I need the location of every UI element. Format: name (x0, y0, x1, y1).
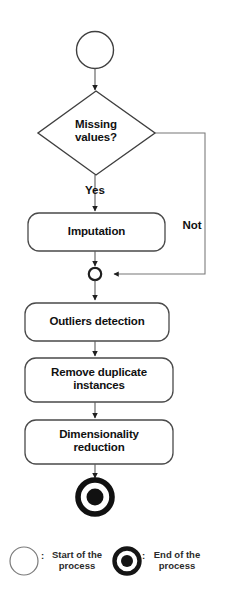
merge-node (89, 268, 101, 280)
missing-values-decision (38, 91, 155, 175)
flowchart-graphics (0, 0, 228, 590)
legend-start-label: Start of the process (47, 550, 107, 572)
legend-end-separator: : (142, 550, 145, 561)
legend-start-separator: : (41, 550, 44, 561)
legend-start-line2: process (47, 561, 107, 572)
outliers-detection-step (25, 303, 169, 341)
branch-label-yes: Yes (75, 184, 115, 196)
legend-start-icon (10, 547, 38, 575)
edge-decision-not (114, 133, 205, 274)
flowchart-canvas: Missing values? Yes Not Imputation Outli… (0, 0, 228, 590)
imputation-step (28, 213, 165, 251)
start-node (77, 32, 114, 69)
legend-end-label: End of the process (148, 550, 206, 572)
legend-end-icon (115, 549, 140, 574)
remove-duplicates-step (25, 358, 173, 402)
branch-label-not: Not (176, 219, 208, 231)
end-node (78, 480, 112, 514)
legend-end-line2: process (148, 561, 206, 572)
dimensionality-reduction-step (25, 420, 173, 464)
